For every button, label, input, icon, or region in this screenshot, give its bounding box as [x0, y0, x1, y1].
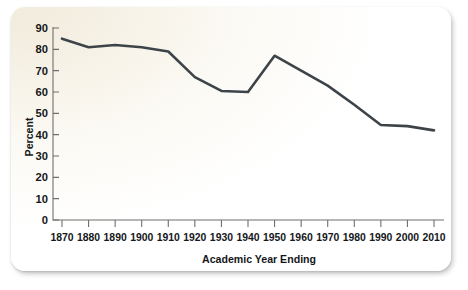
x-tick-label: 2000: [396, 232, 419, 243]
data-series-group: [62, 39, 434, 131]
x-tick-label: 1960: [290, 232, 313, 243]
x-tick-label: 2010: [422, 232, 445, 243]
line-chart: 0102030405060708090 18701880189019001910…: [11, 7, 451, 271]
y-axis-title: Percent: [23, 117, 35, 156]
x-tick-label: 1950: [263, 232, 286, 243]
y-tick-label: 10: [36, 193, 48, 205]
x-tick-label: 1980: [343, 232, 366, 243]
x-tick-label: 1890: [104, 232, 127, 243]
y-tick-label: 30: [36, 150, 48, 162]
x-axis-title: Academic Year Ending: [202, 253, 316, 265]
x-tick-label: 1940: [236, 232, 259, 243]
y-tick-label: 50: [36, 107, 48, 119]
x-tick-label: 1970: [316, 232, 339, 243]
x-axis-tick-labels: 1870188018901900191019201930194019501960…: [50, 232, 445, 243]
x-tick-label: 1910: [157, 232, 180, 243]
x-axis-ticks: [62, 220, 434, 227]
y-tick-label: 90: [36, 22, 48, 34]
x-tick-label: 1920: [183, 232, 206, 243]
x-tick-label: 1930: [210, 232, 233, 243]
y-tick-label: 80: [36, 43, 48, 55]
y-tick-label: 70: [36, 65, 48, 77]
chart-card: 0102030405060708090 18701880189019001910…: [11, 7, 451, 271]
x-tick-label: 1880: [77, 232, 100, 243]
y-axis-ticks: [53, 28, 59, 220]
x-tick-label: 1900: [130, 232, 153, 243]
y-axis-tick-labels: 0102030405060708090: [36, 22, 48, 226]
x-tick-label: 1870: [50, 232, 73, 243]
y-tick-label: 0: [42, 214, 48, 226]
data-line: [62, 39, 434, 131]
y-tick-label: 60: [36, 86, 48, 98]
axis-lines: [53, 27, 444, 220]
y-tick-label: 40: [36, 129, 48, 141]
x-tick-label: 1990: [369, 232, 392, 243]
chart-axes: [53, 27, 444, 220]
y-tick-label: 20: [36, 171, 48, 183]
